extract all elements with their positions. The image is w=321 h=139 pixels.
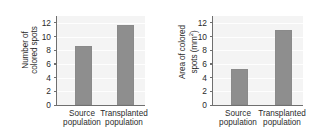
y-tick-mark bbox=[54, 22, 58, 23]
y-tick-label: 2 bbox=[202, 86, 207, 96]
x-tick-label-line: population bbox=[242, 118, 321, 127]
plot-area-right bbox=[212, 16, 303, 106]
y-tick-mark bbox=[210, 77, 214, 78]
y-axis-title-left: Number of colored spots bbox=[20, 0, 42, 100]
y-tick-label: 12 bbox=[198, 18, 207, 28]
chart-panel-area-of-colored-spots: Area of colored spots (mm2) 024681012 So… bbox=[160, 0, 321, 139]
superscript-two: 2 bbox=[188, 33, 194, 36]
y-tick-mark bbox=[210, 50, 214, 51]
x-tick-label-line: Transplanted bbox=[84, 109, 164, 118]
y-tick-mark bbox=[54, 50, 58, 51]
y-tick-label: 4 bbox=[202, 73, 207, 83]
y-tick-mark bbox=[54, 105, 58, 106]
y-tick-mark bbox=[54, 91, 58, 92]
chart-panel-number-of-colored-spots: Number of colored spots 024681012 Source… bbox=[0, 0, 161, 139]
y-tick-label: 8 bbox=[202, 45, 207, 55]
bar bbox=[231, 69, 248, 105]
bar-chart-figure: Number of colored spots 024681012 Source… bbox=[0, 0, 321, 139]
y-tick-label: 10 bbox=[198, 32, 207, 42]
bar bbox=[275, 30, 292, 105]
gridline bbox=[213, 23, 303, 24]
plot-area-left bbox=[56, 16, 145, 106]
y-tick-mark bbox=[210, 105, 214, 106]
y-tick-mark bbox=[210, 36, 214, 37]
x-tick-label-line: population bbox=[84, 118, 164, 127]
y-axis-title-right-line1: Area of colored bbox=[179, 25, 188, 79]
y-tick-label: 12 bbox=[42, 18, 51, 28]
y-tick-label: 4 bbox=[46, 73, 51, 83]
bar bbox=[75, 46, 92, 105]
y-tick-label: 8 bbox=[46, 45, 51, 55]
y-tick-mark bbox=[210, 91, 214, 92]
y-tick-mark bbox=[54, 77, 58, 78]
y-tick-mark bbox=[54, 36, 58, 37]
y-tick-label: 6 bbox=[46, 59, 51, 69]
y-tick-mark bbox=[54, 63, 58, 64]
x-tick-label: Transplantedpopulation bbox=[242, 109, 321, 127]
bar bbox=[117, 25, 134, 105]
y-axis-title-left-line2: colored spots bbox=[31, 26, 40, 73]
y-tick-label: 6 bbox=[202, 59, 207, 69]
x-tick-label-line: Transplanted bbox=[242, 109, 321, 118]
y-tick-mark bbox=[210, 63, 214, 64]
y-tick-mark bbox=[210, 22, 214, 23]
y-tick-label: 2 bbox=[46, 86, 51, 96]
x-tick-label: Transplantedpopulation bbox=[84, 109, 164, 127]
gridline bbox=[57, 23, 145, 24]
y-tick-label: 10 bbox=[42, 32, 51, 42]
